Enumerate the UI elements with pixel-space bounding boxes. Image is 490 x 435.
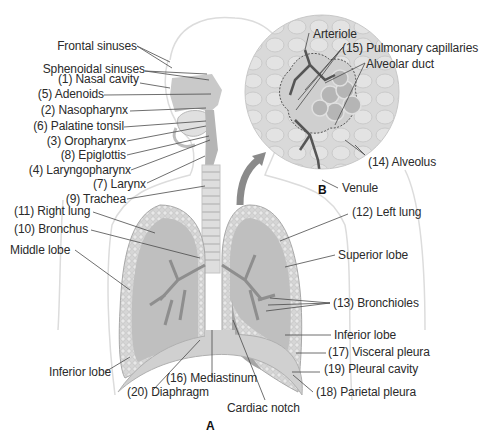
label-laryngopharynx: (4) Laryngopharynx <box>10 163 131 177</box>
label-inferior-lobe-right: Inferior lobe <box>49 365 111 379</box>
label-larynx: (7) Larynx <box>20 177 146 191</box>
label-frontal-sinuses: Frontal sinuses <box>20 39 137 53</box>
label-parietal-pleura: (18) Parietal pleura <box>316 385 416 399</box>
label-epiglottis: (8) Epiglottis <box>20 148 126 162</box>
label-inferior-lobe-left: Inferior lobe <box>334 328 396 342</box>
label-nasal-cavity: (1) Nasal cavity <box>20 72 139 86</box>
label-bronchioles: (13) Bronchioles <box>333 296 419 310</box>
panel-label-a: A <box>206 419 215 433</box>
label-mediastinum: (16) Mediastinum <box>166 371 257 385</box>
label-venule: Venule <box>342 181 378 195</box>
label-adenoids: (5) Adenoids <box>20 87 104 101</box>
label-palatine-tonsil: (6) Palatine tonsil <box>20 119 124 133</box>
label-arteriole: Arteriole <box>313 27 357 41</box>
label-cardiac-notch: Cardiac notch <box>227 401 300 415</box>
label-right-lung: (11) Right lung <box>14 204 90 218</box>
label-nasopharynx: (2) Nasopharynx <box>20 103 128 117</box>
label-superior-lobe: Superior lobe <box>338 248 408 262</box>
respiratory-diagram: Frontal sinuses Sphenoidal sinuses (1) N… <box>0 0 490 435</box>
label-pulmonary-capillaries: (15) Pulmonary capillaries <box>342 41 478 55</box>
label-pleural-cavity: (19) Pleural cavity <box>324 362 418 376</box>
label-diaphragm: (20) Diaphragm <box>127 385 209 399</box>
label-visceral-pleura: (17) Visceral pleura <box>328 345 430 359</box>
label-bronchus: (10) Bronchus <box>14 222 88 236</box>
label-middle-lobe: Middle lobe <box>10 243 70 257</box>
label-oropharynx: (3) Oropharynx <box>20 134 126 148</box>
label-alveolar-duct: Alveolar duct <box>366 57 434 71</box>
panel-label-b: B <box>318 183 327 197</box>
label-left-lung: (12) Left lung <box>352 205 421 219</box>
label-alveolus: (14) Alveolus <box>368 155 436 169</box>
